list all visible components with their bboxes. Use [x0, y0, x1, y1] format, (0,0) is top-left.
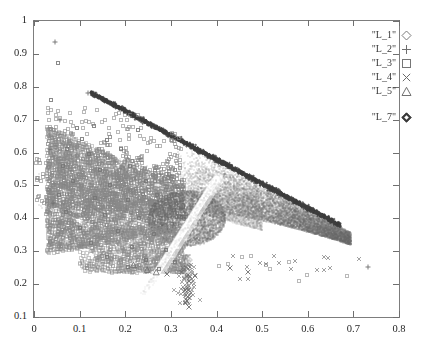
scatter-plot-figure: 0.10.20.30.40.50.60.70.80.91 00.10.20.30… — [0, 0, 436, 346]
x-tick-mark-top — [217, 20, 218, 26]
legend-marker-cross-icon — [401, 72, 412, 83]
x-tick-mark — [34, 311, 35, 317]
scatter-data-canvas — [34, 21, 399, 317]
legend-item-label: "L_3" — [372, 58, 396, 68]
y-tick-mark — [33, 251, 39, 252]
x-tick-mark — [353, 311, 354, 317]
x-tick-label: 0 — [14, 324, 54, 335]
y-tick-mark — [33, 284, 39, 285]
x-tick-label: 0.3 — [151, 324, 191, 335]
y-tick-label: 1 — [0, 15, 27, 26]
plot-area — [33, 20, 400, 318]
x-tick-label: 0.5 — [242, 324, 282, 335]
legend-item: "L_3" — [352, 56, 412, 70]
x-tick-mark-top — [262, 20, 263, 26]
x-tick-mark — [308, 311, 309, 317]
x-tick-mark — [80, 311, 81, 317]
y-tick-label: 0.2 — [0, 278, 27, 289]
legend-item: "L_1" — [352, 28, 412, 42]
legend-marker-diamond-filled-icon — [401, 112, 412, 123]
y-tick-mark — [33, 185, 39, 186]
y-tick-mark-right — [393, 251, 399, 252]
x-tick-mark-top — [34, 20, 35, 26]
legend: "L_1""L_2""L_3""L_4""L_5""L_7" — [352, 28, 412, 124]
legend-item-label: "L_7" — [372, 112, 396, 122]
x-tick-label: 0.4 — [197, 324, 237, 335]
y-tick-mark-right — [393, 185, 399, 186]
y-tick-label: 0.7 — [0, 114, 27, 125]
x-tick-mark — [262, 311, 263, 317]
y-tick-mark — [33, 54, 39, 55]
y-tick-label: 0.3 — [0, 245, 27, 256]
y-tick-mark-right — [393, 218, 399, 219]
x-tick-mark-top — [171, 20, 172, 26]
x-tick-label: 0.6 — [288, 324, 328, 335]
y-tick-label: 0.1 — [0, 311, 27, 322]
x-tick-label: 0.7 — [333, 324, 373, 335]
legend-marker-plus-icon — [401, 44, 412, 55]
legend-item: "L_2" — [352, 42, 412, 56]
x-tick-mark — [171, 311, 172, 317]
y-tick-mark — [33, 153, 39, 154]
x-tick-mark-top — [125, 20, 126, 26]
legend-item-label: "L_1" — [372, 30, 396, 40]
y-tick-label: 0.9 — [0, 48, 27, 59]
x-tick-mark-top — [353, 20, 354, 26]
x-tick-label: 0.8 — [379, 324, 419, 335]
x-tick-mark-top — [80, 20, 81, 26]
y-tick-mark — [33, 87, 39, 88]
y-tick-label: 0.6 — [0, 147, 27, 158]
x-tick-label: 0.1 — [60, 324, 100, 335]
legend-item: "L_4" — [352, 70, 412, 84]
y-tick-mark — [33, 120, 39, 121]
y-tick-mark — [33, 317, 39, 318]
legend-item: "L_7" — [352, 110, 412, 124]
legend-item-label: "L_4" — [372, 72, 396, 82]
x-tick-mark — [125, 311, 126, 317]
legend-item: "L_5" — [352, 84, 412, 98]
x-tick-mark-top — [308, 20, 309, 26]
y-tick-mark-right — [393, 317, 399, 318]
y-tick-mark-right — [393, 153, 399, 154]
y-tick-mark — [33, 218, 39, 219]
y-tick-label: 0.5 — [0, 179, 27, 190]
x-tick-label: 0.2 — [105, 324, 145, 335]
legend-spacer — [352, 98, 412, 110]
legend-marker-diamond-open-icon — [401, 30, 412, 41]
legend-item-label: "L_2" — [372, 44, 396, 54]
y-tick-label: 0.4 — [0, 212, 27, 223]
legend-marker-square-open-icon — [401, 58, 412, 69]
y-tick-mark-right — [393, 284, 399, 285]
legend-marker-triangle-open-icon — [401, 86, 412, 97]
x-tick-mark — [399, 311, 400, 317]
x-tick-mark — [217, 311, 218, 317]
x-tick-mark-top — [399, 20, 400, 26]
y-tick-label: 0.8 — [0, 81, 27, 92]
legend-item-label: "L_5" — [372, 86, 396, 96]
